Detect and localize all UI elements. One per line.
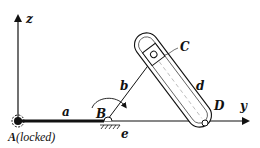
link-a: a [18,105,104,121]
link-d-label: d [196,79,205,93]
pivot-b-label: B [95,107,106,121]
pivot-a: A(locked) [7,115,55,144]
link-a-label: a [62,105,70,119]
pivot-a-note: (locked) [16,130,55,144]
pivot-a-label: A [7,130,16,144]
y-axis-label: y [239,99,248,113]
link-b: b [108,63,150,119]
z-axis: z [18,12,34,121]
point-c-label: C [180,40,190,54]
ground-e: e [100,125,129,141]
link-b-label: b [120,79,128,93]
pivot-b: B [95,107,112,121]
pivot-d-label: D [213,99,225,113]
ground-e-label: e [121,127,129,141]
mechanism-diagram: z y a A(locked) e b B [0,0,260,148]
point-c: C [165,40,190,55]
z-axis-label: z [25,12,34,26]
svg-text:A(locked): A(locked) [7,130,55,144]
